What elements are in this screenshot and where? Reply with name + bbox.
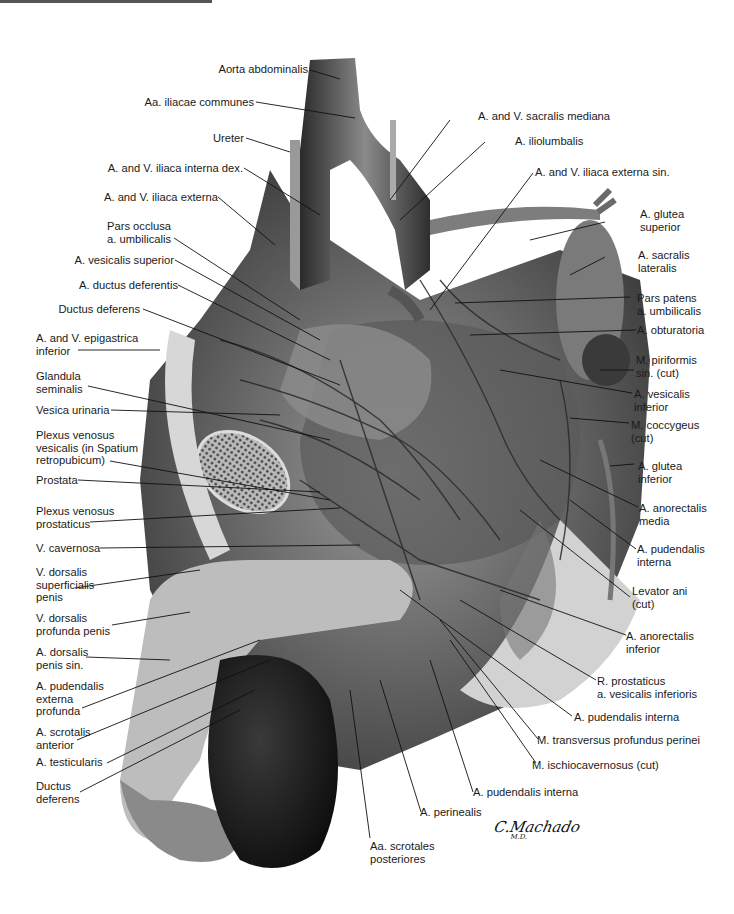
label-transversus-profundus: M. transversus profundus perinei (537, 734, 700, 747)
label-pars-occlusa: Pars occlusa a. umbilicalis (107, 220, 171, 245)
label-testicularis: A. testicularis (36, 756, 103, 769)
label-aorta: Aorta abdominalis (180, 63, 308, 76)
label-pudendalis-interna-3: A. pudendalis interna (473, 786, 578, 799)
label-perinealis: A. perinealis (420, 806, 482, 819)
label-glandula-seminalis: Glandula seminalis (36, 370, 83, 395)
artist-signature: C.Machado M.D. (492, 818, 583, 841)
label-anorectalis-media: A. anorectalis media (639, 502, 707, 527)
label-glutea-inferior: A. glutea inferior (638, 460, 682, 485)
label-r-prostaticus: R. prostaticus a. vesicalis inferioris (597, 675, 697, 700)
label-pudendalis-externa-profunda: A. pudendalis externa profunda (36, 680, 104, 718)
label-scrotales-posteriores: Aa. scrotales posteriores (370, 840, 435, 865)
label-anorectalis-inferior: A. anorectalis inferior (626, 630, 694, 655)
label-vesica-urinaria: Vesica urinaria (36, 404, 109, 417)
label-pudendalis-interna-2: A. pudendalis interna (574, 711, 679, 724)
label-plexus-venosus-prostaticus: Plexus venosus prostaticus (36, 505, 114, 530)
label-a-dorsalis-penis: A. dorsalis penis sin. (36, 646, 88, 671)
label-obturatoria: A. obturatoria (637, 324, 704, 337)
signature-text: C.Machado (493, 818, 582, 836)
label-iliaca-externa-sin: A. and V. iliaca externa sin. (535, 166, 670, 179)
label-piriformis: M. piriformis sin. (cut) (636, 354, 697, 379)
label-coccygeus: M. coccygeus (cut) (631, 419, 699, 444)
label-iliaca-interna-dex: A. and V. iliaca interna dex. (80, 162, 243, 175)
label-v-dorsalis-superficialis: V. dorsalis superficialis penis (36, 566, 94, 604)
label-vesicalis-inferior: A. vesicalis inferior (634, 388, 690, 413)
label-prostata: Prostata (36, 474, 78, 487)
label-ureter: Ureter (180, 132, 244, 145)
label-levator-ani: Levator ani (cut) (632, 585, 687, 610)
label-v-dorsalis-profunda: V. dorsalis profunda penis (36, 612, 110, 637)
label-pudendalis-interna-1: A. pudendalis interna (637, 543, 705, 568)
label-plexus-venosus-vesicalis: Plexus venosus vesicalis (in Spatium ret… (36, 429, 138, 467)
label-iliaca-externa: A. and V. iliaca externa (80, 191, 218, 204)
label-scrotalis-anterior: A. scrotalis anterior (36, 726, 91, 751)
label-ductus-deferens-2: Ductus deferens (36, 780, 80, 805)
scrotum (208, 655, 338, 868)
label-iliolumbalis: A. iliolumbalis (515, 135, 583, 148)
label-v-cavernosa: V. cavernosa (36, 542, 100, 555)
label-iliacae-communes: Aa. iliacae communes (120, 96, 254, 109)
label-ischiocavernosus: M. ischiocavernosus (cut) (532, 759, 659, 772)
label-ductus-deferens: Ductus deferens (40, 303, 140, 316)
label-sacralis-mediana: A. and V. sacralis mediana (478, 110, 610, 123)
label-vesicalis-superior: A. vesicalis superior (60, 254, 174, 267)
label-pars-patens: Pars patens a. umbilicalis (637, 292, 701, 317)
label-epigastrica-inferior: A. and V. epigastrica inferior (36, 332, 138, 357)
label-glutea-superior: A. glutea superior (640, 208, 684, 233)
label-sacralis-lateralis: A. sacralis lateralis (638, 249, 690, 274)
label-ductus-deferentis: A. ductus deferentis (60, 279, 178, 292)
